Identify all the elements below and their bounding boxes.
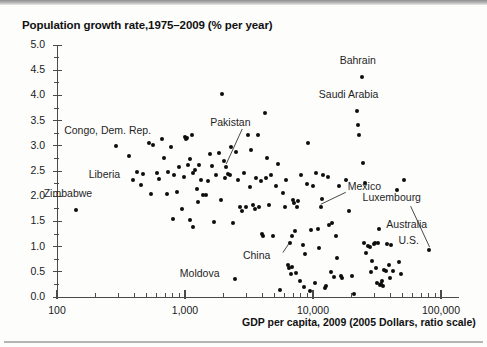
annotation-label: Moldova: [180, 267, 220, 279]
annotation-label: Liberia: [89, 168, 121, 180]
x-axis-title: GDP per capita, 2009 (2005 Dollars, rati…: [242, 316, 476, 328]
annotation-label: U.S.: [398, 234, 418, 246]
annotation-label: Saudi Arabia: [319, 88, 379, 100]
scatter-plot: 0.00.51.01.52.02.53.03.54.04.55.01001,00…: [0, 0, 487, 347]
annotation-label: Luxembourg: [363, 191, 421, 203]
annotation-label: Australia: [386, 218, 427, 230]
leader-lines: [0, 0, 487, 347]
annotation-label: Bahrain: [340, 54, 376, 66]
annotation-label: China: [243, 249, 270, 261]
figure-page: Population growth rate,1975–2009 (% per …: [0, 0, 487, 347]
annotation-label: Pakistan: [210, 116, 250, 128]
annotation-label: Zimbabwe: [44, 187, 92, 199]
annotation-label: Congo, Dem. Rep.: [64, 124, 151, 136]
